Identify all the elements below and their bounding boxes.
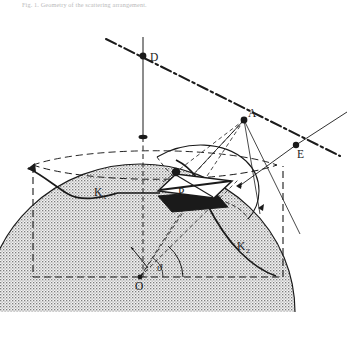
ray-E-outward: [296, 112, 347, 145]
dome-fill-overlay: [0, 164, 295, 312]
equator-front-arc: [33, 151, 277, 165]
point-marker-plate-apex: [172, 168, 180, 176]
label-curve-k2-subscript: 2: [246, 247, 250, 255]
label-curve-k1-subscript: 1: [103, 193, 107, 201]
point-marker-d: [140, 53, 147, 60]
tick-marker-on-ray: [258, 204, 264, 211]
point-marker-a: [241, 117, 248, 124]
scattering-geometry-diagram: D A E P K 1 K 2 O ϑ: [0, 0, 351, 337]
label-plate-p: P: [178, 186, 184, 198]
point-marker-origin: [138, 275, 143, 280]
hemisphere-dome: [0, 164, 295, 312]
tick-marker-on-cap: [236, 182, 242, 189]
axis-pole-marker: [139, 135, 148, 139]
label-point-a: A: [248, 107, 257, 119]
label-point-e: E: [297, 148, 304, 160]
label-point-d: D: [150, 51, 158, 63]
figure-root: Fig. 1. Geometry of the scattering arran…: [0, 0, 351, 337]
label-curve-k1: K: [94, 186, 103, 198]
label-curve-k2: K: [237, 240, 246, 252]
label-origin: O: [135, 280, 143, 292]
